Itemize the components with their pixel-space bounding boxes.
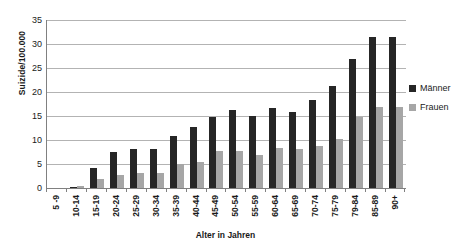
x-tick-mark <box>325 188 326 192</box>
bar-maenner <box>170 136 177 188</box>
bar-frauen <box>157 173 164 188</box>
bar-maenner <box>269 108 276 188</box>
x-axis-tick-label: 45-49 <box>210 195 220 217</box>
x-label-slot: 55-59 <box>245 193 265 227</box>
bar-group <box>226 20 246 188</box>
bar-group <box>326 20 346 188</box>
x-tick-mark <box>285 188 286 192</box>
bar-frauen <box>256 155 263 188</box>
bar-group <box>386 20 406 188</box>
x-axis-tick-label: 79-84 <box>350 195 360 217</box>
bar-frauen <box>356 117 363 188</box>
y-axis-tick-label: 10 <box>18 135 42 145</box>
x-tick-mark <box>106 188 107 192</box>
x-axis-tick-label: 50-54 <box>230 195 240 217</box>
x-tick-mark <box>126 188 127 192</box>
bar-maenner <box>309 100 316 188</box>
x-tick-mark <box>345 188 346 192</box>
bar-group <box>127 20 147 188</box>
x-axis-tick-label: 35-39 <box>171 195 181 217</box>
bar-frauen <box>276 148 283 188</box>
x-tick-mark <box>365 188 366 192</box>
y-axis-tick-labels: 35302520151050 <box>18 14 42 194</box>
bar-maenner <box>289 112 296 188</box>
bar-group <box>286 20 306 188</box>
x-axis-tick-label: 70-74 <box>310 195 320 217</box>
bar-maenner <box>369 37 376 188</box>
bar-maenner <box>249 116 256 188</box>
x-label-slot: 40-44 <box>186 193 206 227</box>
legend-item: Männer <box>409 83 465 93</box>
x-tick-mark <box>46 188 47 192</box>
x-label-slot: 50-54 <box>225 193 245 227</box>
bar-maenner <box>349 59 356 188</box>
bar-group <box>346 20 366 188</box>
bar-frauen <box>296 149 303 188</box>
y-axis-tick-label: 35 <box>18 15 42 25</box>
bar-frauen <box>376 107 383 188</box>
x-tick-mark <box>225 188 226 192</box>
bar-group <box>67 20 87 188</box>
x-axis-tick-label: 75-79 <box>330 195 340 217</box>
x-tick-mark <box>186 188 187 192</box>
bar-group <box>246 20 266 188</box>
bar-maenner <box>389 37 396 188</box>
x-axis-tick-label: 20-24 <box>111 195 121 217</box>
x-tick-mark <box>265 188 266 192</box>
x-label-slot: 75-79 <box>325 193 345 227</box>
x-axis-tick-label: 60-64 <box>270 195 280 217</box>
bar-group <box>167 20 187 188</box>
x-axis-tick-label: 10-14 <box>71 195 81 217</box>
x-label-slot: 65-69 <box>285 193 305 227</box>
x-label-slot: 25-29 <box>126 193 146 227</box>
bar-frauen <box>97 179 104 188</box>
bar-frauen <box>316 146 323 188</box>
bar-group <box>147 20 167 188</box>
bar-frauen <box>197 162 204 188</box>
bar-group <box>47 20 67 188</box>
x-label-slot: 15-19 <box>86 193 106 227</box>
y-axis-tick-label: 25 <box>18 63 42 73</box>
y-axis-tick-label: 20 <box>18 87 42 97</box>
bar-maenner <box>190 127 197 188</box>
bar-frauen <box>177 164 184 188</box>
x-tick-mark <box>66 188 67 192</box>
chart-legend: MännerFrauen <box>409 83 465 121</box>
bar-group <box>306 20 326 188</box>
bar-maenner <box>329 86 336 188</box>
x-label-slot: 35-39 <box>166 193 186 227</box>
x-axis-tick-label: 90+ <box>390 195 400 209</box>
x-label-slot: 45-49 <box>206 193 226 227</box>
x-label-slot: 20-24 <box>106 193 126 227</box>
x-tick-mark <box>86 188 87 192</box>
bar-groups <box>47 20 406 188</box>
bar-maenner <box>229 110 236 188</box>
x-label-slot: 10-14 <box>66 193 86 227</box>
x-axis-tick-label: 55-59 <box>250 195 260 217</box>
bar-frauen <box>117 175 124 188</box>
bar-maenner <box>150 149 157 188</box>
x-axis-tick-label: 65-69 <box>290 195 300 217</box>
x-label-slot: 79-84 <box>345 193 365 227</box>
bar-group <box>207 20 227 188</box>
x-tick-mark <box>245 188 246 192</box>
y-axis-tick-label: 0 <box>18 183 42 193</box>
bar-group <box>266 20 286 188</box>
y-axis-tick-label: 15 <box>18 111 42 121</box>
x-label-slot: 90+ <box>385 193 405 227</box>
x-axis-tick-label: 15-19 <box>91 195 101 217</box>
x-label-slot: 5 -9 <box>46 193 66 227</box>
x-label-slot: 85-89 <box>365 193 385 227</box>
y-axis-tick-label: 5 <box>18 159 42 169</box>
legend-color-swatch <box>409 104 416 111</box>
x-label-slot: 70-74 <box>305 193 325 227</box>
x-axis-title: Alter in Jahren <box>46 230 405 240</box>
x-axis-tick-label: 30-34 <box>151 195 161 217</box>
x-axis-tick-label: 40-44 <box>191 195 201 217</box>
bar-frauen <box>396 107 403 188</box>
bar-frauen <box>336 139 343 188</box>
x-label-slot: 60-64 <box>265 193 285 227</box>
bar-group <box>107 20 127 188</box>
bar-frauen <box>236 151 243 188</box>
x-tick-mark <box>146 188 147 192</box>
